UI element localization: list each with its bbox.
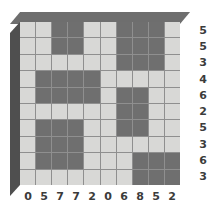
grid-cell[interactable] bbox=[20, 55, 35, 70]
grid-cell[interactable] bbox=[101, 22, 116, 37]
grid-cell[interactable] bbox=[133, 55, 148, 70]
grid-cell[interactable] bbox=[133, 153, 148, 168]
grid-cell[interactable] bbox=[68, 153, 83, 168]
grid-cell[interactable] bbox=[101, 120, 116, 135]
grid-cell[interactable] bbox=[165, 104, 180, 119]
grid-cell[interactable] bbox=[20, 88, 35, 103]
grid-cell[interactable] bbox=[68, 55, 83, 70]
grid-cell[interactable] bbox=[68, 120, 83, 135]
grid-cell[interactable] bbox=[52, 170, 67, 185]
grid-cell[interactable] bbox=[149, 55, 164, 70]
grid-cell[interactable] bbox=[165, 120, 180, 135]
grid-cell[interactable] bbox=[36, 88, 51, 103]
grid-cell[interactable] bbox=[68, 104, 83, 119]
grid-cell[interactable] bbox=[52, 55, 67, 70]
grid-cell[interactable] bbox=[68, 38, 83, 53]
grid-cell[interactable] bbox=[101, 104, 116, 119]
grid-cell[interactable] bbox=[84, 71, 99, 86]
grid-cell[interactable] bbox=[133, 22, 148, 37]
grid-cell[interactable] bbox=[84, 88, 99, 103]
grid-cell[interactable] bbox=[149, 71, 164, 86]
grid-cell[interactable] bbox=[165, 22, 180, 37]
grid-cell[interactable] bbox=[36, 120, 51, 135]
grid-cell[interactable] bbox=[20, 104, 35, 119]
grid-cell[interactable] bbox=[101, 55, 116, 70]
grid-cell[interactable] bbox=[149, 120, 164, 135]
grid-cell[interactable] bbox=[20, 170, 35, 185]
grid-cell[interactable] bbox=[36, 170, 51, 185]
grid-cell[interactable] bbox=[101, 153, 116, 168]
grid-cell[interactable] bbox=[68, 22, 83, 37]
grid-cell[interactable] bbox=[117, 55, 132, 70]
grid-cell[interactable] bbox=[149, 104, 164, 119]
grid-cell[interactable] bbox=[101, 88, 116, 103]
grid-cell[interactable] bbox=[68, 71, 83, 86]
grid-cell[interactable] bbox=[84, 137, 99, 152]
grid-cell[interactable] bbox=[133, 38, 148, 53]
grid-cell[interactable] bbox=[117, 153, 132, 168]
grid-cell[interactable] bbox=[20, 22, 35, 37]
grid-cell[interactable] bbox=[149, 170, 164, 185]
grid-cell[interactable] bbox=[133, 104, 148, 119]
grid-cell[interactable] bbox=[117, 22, 132, 37]
cell-grid[interactable] bbox=[20, 22, 180, 185]
grid-cell[interactable] bbox=[68, 170, 83, 185]
grid-cell[interactable] bbox=[52, 120, 67, 135]
grid-cell[interactable] bbox=[133, 170, 148, 185]
grid-cell[interactable] bbox=[117, 120, 132, 135]
grid-cell[interactable] bbox=[101, 170, 116, 185]
grid-cell[interactable] bbox=[84, 153, 99, 168]
grid-cell[interactable] bbox=[84, 120, 99, 135]
grid-cell[interactable] bbox=[101, 71, 116, 86]
grid-cell[interactable] bbox=[117, 88, 132, 103]
grid-cell[interactable] bbox=[133, 120, 148, 135]
grid-cell[interactable] bbox=[149, 38, 164, 53]
grid-cell[interactable] bbox=[84, 22, 99, 37]
grid-cell[interactable] bbox=[84, 170, 99, 185]
grid-cell[interactable] bbox=[101, 38, 116, 53]
grid-cell[interactable] bbox=[36, 104, 51, 119]
grid-cell[interactable] bbox=[36, 153, 51, 168]
grid-cell[interactable] bbox=[20, 71, 35, 86]
grid-cell[interactable] bbox=[149, 153, 164, 168]
grid-cell[interactable] bbox=[20, 153, 35, 168]
grid-cell[interactable] bbox=[117, 170, 132, 185]
grid-cell[interactable] bbox=[149, 22, 164, 37]
grid-cell[interactable] bbox=[20, 120, 35, 135]
grid-cell[interactable] bbox=[165, 88, 180, 103]
grid-cell[interactable] bbox=[149, 88, 164, 103]
grid-cell[interactable] bbox=[149, 137, 164, 152]
grid-cell[interactable] bbox=[52, 88, 67, 103]
grid-cell[interactable] bbox=[133, 137, 148, 152]
grid-cell[interactable] bbox=[68, 88, 83, 103]
grid-cell[interactable] bbox=[101, 137, 116, 152]
grid-cell[interactable] bbox=[117, 71, 132, 86]
grid-cell[interactable] bbox=[165, 137, 180, 152]
grid-cell[interactable] bbox=[133, 71, 148, 86]
grid-cell[interactable] bbox=[20, 137, 35, 152]
grid-cell[interactable] bbox=[68, 137, 83, 152]
grid-cell[interactable] bbox=[20, 38, 35, 53]
grid-cell[interactable] bbox=[117, 38, 132, 53]
grid-cell[interactable] bbox=[52, 104, 67, 119]
grid-cell[interactable] bbox=[36, 137, 51, 152]
grid-cell[interactable] bbox=[52, 153, 67, 168]
grid-cell[interactable] bbox=[117, 137, 132, 152]
grid-cell[interactable] bbox=[52, 71, 67, 86]
grid-cell[interactable] bbox=[165, 170, 180, 185]
grid-cell[interactable] bbox=[52, 38, 67, 53]
grid-cell[interactable] bbox=[133, 88, 148, 103]
grid-cell[interactable] bbox=[165, 55, 180, 70]
grid-cell[interactable] bbox=[84, 38, 99, 53]
grid-cell[interactable] bbox=[117, 104, 132, 119]
grid-cell[interactable] bbox=[36, 55, 51, 70]
grid-cell[interactable] bbox=[84, 104, 99, 119]
grid-cell[interactable] bbox=[36, 71, 51, 86]
grid-cell[interactable] bbox=[52, 22, 67, 37]
grid-cell[interactable] bbox=[84, 55, 99, 70]
grid-cell[interactable] bbox=[36, 38, 51, 53]
grid-cell[interactable] bbox=[165, 153, 180, 168]
grid-cell[interactable] bbox=[52, 137, 67, 152]
grid-cell[interactable] bbox=[165, 38, 180, 53]
grid-cell[interactable] bbox=[36, 22, 51, 37]
